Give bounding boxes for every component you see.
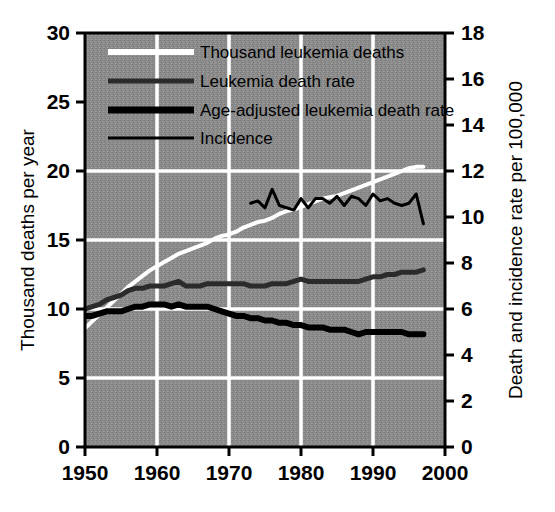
right-axis-tick-labels: 024681012141618 — [461, 21, 485, 458]
y-tick-label-0: 0 — [58, 435, 70, 458]
y-tick-label-25: 25 — [47, 90, 71, 113]
x-tick-label-1960: 1960 — [134, 461, 181, 484]
y-tick-label-20: 20 — [47, 159, 70, 182]
x-axis-tick-labels: 195019601970198019902000 — [62, 461, 469, 484]
y2-tick-label-4: 4 — [461, 343, 473, 366]
x-tick-label-1980: 1980 — [278, 461, 325, 484]
x-tick-label-1970: 1970 — [206, 461, 253, 484]
y2-tick-label-14: 14 — [461, 113, 485, 136]
y2-tick-label-10: 10 — [461, 205, 484, 228]
chart-canvas: 051015202530 024681012141618 19501960197… — [0, 0, 555, 512]
y-tick-label-15: 15 — [47, 228, 71, 251]
y2-tick-label-2: 2 — [461, 389, 473, 412]
y2-tick-label-16: 16 — [461, 67, 484, 90]
left-axis-tick-labels: 051015202530 — [47, 21, 71, 458]
y2-tick-label-8: 8 — [461, 251, 473, 274]
legend-label-3: Incidence — [200, 129, 273, 148]
y2-tick-label-6: 6 — [461, 297, 473, 320]
x-tick-label-1950: 1950 — [62, 461, 109, 484]
y-tick-label-30: 30 — [47, 21, 70, 44]
legend-label-1: Leukemia death rate — [200, 72, 355, 91]
y-axis-title: Thousand deaths per year — [17, 128, 38, 350]
leukemia-trends-figure: 051015202530 024681012141618 19501960197… — [0, 0, 555, 512]
y-tick-label-10: 10 — [47, 297, 70, 320]
y2-axis-title: Death and incidence rate per 100,000 — [505, 81, 526, 399]
legend-label-0: Thousand leukemia deaths — [200, 43, 404, 62]
y2-tick-label-12: 12 — [461, 159, 484, 182]
y-tick-label-5: 5 — [58, 366, 70, 389]
legend-label-2: Age-adjusted leukemia death rate — [200, 101, 454, 120]
y2-tick-label-18: 18 — [461, 21, 485, 44]
y2-tick-label-0: 0 — [461, 435, 473, 458]
x-tick-label-2000: 2000 — [422, 461, 469, 484]
x-tick-label-1990: 1990 — [350, 461, 397, 484]
